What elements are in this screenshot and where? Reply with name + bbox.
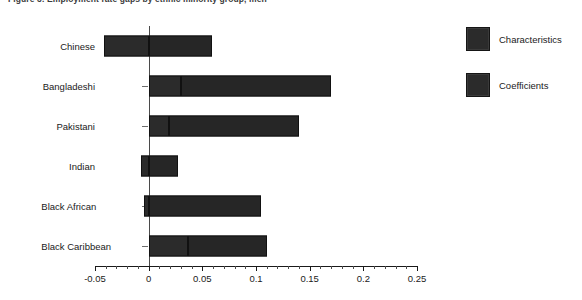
x-axis-tick-major (363, 266, 364, 271)
x-axis: -0.0500.050.10.150.20.25 (95, 266, 417, 298)
bar-segment-coefficients[interactable] (181, 76, 331, 97)
bar-segment-coefficients[interactable] (149, 196, 262, 217)
x-axis-tick-major (95, 266, 96, 271)
chart-row: Pakistani (95, 106, 417, 146)
chart-row: Black African (95, 186, 417, 226)
bar-stack[interactable] (95, 76, 417, 97)
bar-segment-coefficients[interactable] (149, 156, 178, 177)
chart-row: Black Caribbean (95, 226, 417, 266)
x-axis-tick-minor (288, 266, 289, 269)
x-axis-tick-minor (116, 266, 117, 269)
x-axis-tick-major (256, 266, 257, 271)
bar-segment-characteristics[interactable] (149, 236, 189, 257)
bar-segment-coefficients[interactable] (149, 36, 212, 57)
plot-area: ChineseBangladeshiPakistaniIndianBlack A… (95, 26, 417, 266)
x-axis-tick-minor (406, 266, 407, 269)
x-axis-tick-minor (245, 266, 246, 269)
x-axis-tick-minor (342, 266, 343, 269)
bar-segment-characteristics[interactable] (149, 116, 169, 137)
x-axis-tick-minor (181, 266, 182, 269)
x-axis-tick-minor (277, 266, 278, 269)
x-axis-tick-minor (267, 266, 268, 269)
legend-swatch-characteristics-icon (466, 27, 490, 51)
x-axis-tick-major (310, 266, 311, 271)
legend-label-coefficients: Coefficients (499, 80, 548, 91)
bar-segment-coefficients[interactable] (169, 116, 299, 137)
x-axis-tick-minor (374, 266, 375, 269)
bar-segment-characteristics[interactable] (104, 36, 149, 57)
x-axis-tick-minor (299, 266, 300, 269)
x-axis-tick-label: 0.05 (193, 273, 212, 284)
page-title: Figure 3: Employment rate gaps by ethnic… (8, 0, 267, 4)
x-axis-tick-label: 0.25 (408, 273, 427, 284)
chart-row: Indian (95, 146, 417, 186)
x-axis-tick-minor (159, 266, 160, 269)
legend-item-coefficients[interactable]: Coefficients (466, 73, 578, 97)
x-axis-tick-major (417, 266, 418, 271)
chart-row: Chinese (95, 26, 417, 66)
x-axis-tick-minor (235, 266, 236, 269)
x-axis-tick-label: 0 (146, 273, 151, 284)
chart-legend: Characteristics Coefficients (466, 27, 578, 119)
x-axis-tick-minor (127, 266, 128, 269)
legend-item-characteristics[interactable]: Characteristics (466, 27, 578, 51)
x-axis-tick-label: 0.2 (357, 273, 370, 284)
x-axis-tick-minor (320, 266, 321, 269)
figure-root: Figure 3: Employment rate gaps by ethnic… (0, 0, 582, 300)
bar-segment-coefficients[interactable] (188, 236, 266, 257)
x-axis-tick-minor (213, 266, 214, 269)
x-axis-tick-major (202, 266, 203, 271)
chart-row: Bangladeshi (95, 66, 417, 106)
bar-stack[interactable] (95, 156, 417, 177)
x-axis-tick-label: -0.05 (84, 273, 106, 284)
x-axis-tick-minor (138, 266, 139, 269)
bar-segment-characteristics[interactable] (141, 156, 149, 177)
x-axis-tick-minor (224, 266, 225, 269)
bar-segment-characteristics[interactable] (149, 76, 181, 97)
x-axis-tick-major (149, 266, 150, 271)
legend-swatch-coefficients-icon (466, 73, 490, 97)
x-axis-tick-label: 0.15 (300, 273, 319, 284)
x-axis-tick-label: 0.1 (249, 273, 262, 284)
x-axis-tick-minor (353, 266, 354, 269)
bar-stack[interactable] (95, 196, 417, 217)
bar-stack[interactable] (95, 36, 417, 57)
bar-stack[interactable] (95, 116, 417, 137)
x-axis-tick-minor (385, 266, 386, 269)
legend-label-characteristics: Characteristics (499, 34, 562, 45)
x-axis-tick-minor (106, 266, 107, 269)
x-axis-tick-minor (192, 266, 193, 269)
x-axis-tick-minor (331, 266, 332, 269)
bar-stack[interactable] (95, 236, 417, 257)
x-axis-tick-minor (396, 266, 397, 269)
x-axis-tick-minor (170, 266, 171, 269)
